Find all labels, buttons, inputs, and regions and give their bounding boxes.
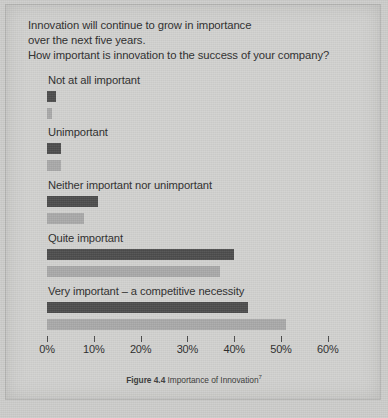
axis-tick-label: 0%: [24, 343, 70, 355]
axis-tick: [281, 336, 282, 342]
question-line-3: How important is innovation to the succe…: [28, 48, 373, 63]
bar: [47, 266, 220, 277]
figure-caption: Figure 4.4 Importance of Innovation7: [0, 374, 388, 385]
bar: [47, 196, 98, 207]
axis-tick-label: 20%: [118, 343, 164, 355]
axis-tick: [141, 336, 142, 342]
axis-tick-label: 60%: [305, 343, 351, 355]
axis-tick-label: 30%: [164, 343, 210, 355]
category-label: Very important – a competitive necessity: [48, 285, 244, 297]
category-label: Quite important: [48, 232, 123, 244]
survey-question: Innovation will continue to grow in impo…: [28, 18, 373, 64]
bar: [47, 213, 84, 224]
bar: [47, 319, 286, 330]
bar: [47, 160, 61, 171]
bar-chart-plot-area: Not at all important2%1%Unimportant3%3%N…: [0, 74, 388, 336]
category-label: Neither important nor unimportant: [48, 179, 212, 191]
category-label: Not at all important: [48, 74, 140, 86]
axis-tick-label: 50%: [258, 343, 304, 355]
axis-tick-label: 10%: [71, 343, 117, 355]
caption-text: Importance of Innovation: [165, 375, 258, 385]
x-axis: 0%10%20%30%40%50%60%: [0, 336, 388, 366]
question-line-1: Innovation will continue to grow in impo…: [28, 18, 373, 33]
caption-footnote-marker: 7: [259, 374, 262, 380]
figure-page: Innovation will continue to grow in impo…: [0, 0, 388, 418]
axis-tick: [187, 336, 188, 342]
axis-tick: [234, 336, 235, 342]
question-line-2: over the next five years.: [28, 33, 373, 48]
category-label: Unimportant: [48, 126, 108, 138]
axis-tick-label: 40%: [211, 343, 257, 355]
bar: [47, 143, 61, 154]
axis-tick: [328, 336, 329, 342]
axis-tick: [47, 336, 48, 342]
axis-tick: [94, 336, 95, 342]
bar: [47, 91, 56, 102]
bar: [47, 249, 234, 260]
bar: [47, 108, 52, 119]
caption-figure-number: Figure 4.4: [126, 375, 165, 385]
bar: [47, 302, 248, 313]
